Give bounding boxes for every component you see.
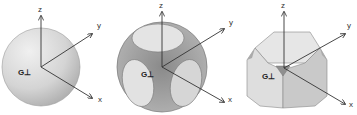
z-axis-label: z [281, 1, 285, 10]
diagram-canvas: z y x G⊥ z y x G⊥ z y x [0, 0, 357, 115]
top-face [132, 24, 184, 52]
g-perp-label: G⊥ [18, 68, 31, 77]
z-axis-label: z [38, 5, 42, 14]
x-axis-label: x [349, 100, 353, 109]
g-perp-label: G⊥ [262, 72, 275, 81]
figure-sphere: z y x G⊥ [2, 5, 102, 106]
figure-sphere-flattened: z y x G⊥ [117, 1, 233, 112]
z-axis-label: z [159, 1, 163, 10]
x-axis-label: x [98, 95, 102, 104]
figure-truncated-cube: z y x G⊥ [247, 1, 353, 109]
g-perp-label: G⊥ [141, 70, 154, 79]
y-axis-label: y [97, 21, 101, 30]
y-axis-label: y [229, 18, 233, 27]
x-axis-label: x [228, 95, 232, 104]
y-axis-label: y [347, 21, 351, 30]
